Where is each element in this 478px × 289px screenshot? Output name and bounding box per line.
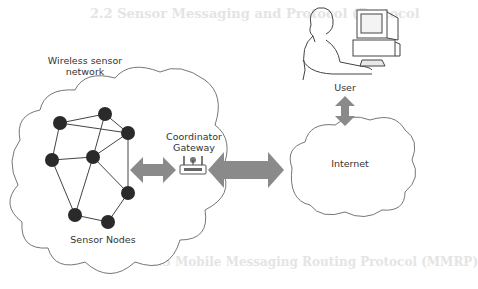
- user-label: User: [325, 82, 365, 93]
- double-arrow-icon: [208, 152, 284, 188]
- wsn-label-line2: network: [30, 66, 140, 77]
- internet-label: Internet: [320, 158, 380, 169]
- router-icon: [180, 156, 206, 174]
- sensor-nodes-label: Sensor Nodes: [58, 234, 148, 245]
- wsn-label-line1: Wireless sensor: [30, 55, 140, 66]
- coordinator-label-line2: Gateway: [160, 142, 228, 153]
- wsn-label: Wireless sensor network: [30, 55, 140, 77]
- coordinator-gateway-label: Coordinator Gateway: [160, 131, 228, 153]
- user-at-computer-icon: [303, 8, 400, 80]
- coordinator-label-line1: Coordinator: [160, 131, 228, 142]
